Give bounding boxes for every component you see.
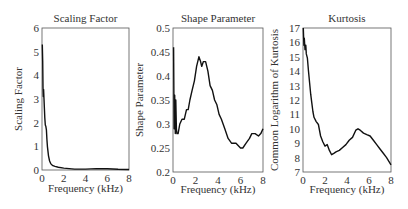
panel-scaling-factor: Scaling Factor Scaling Factor Frequency … — [12, 12, 132, 195]
y-tick-label: 0.35 — [151, 94, 171, 106]
x-tick-label: 0 — [170, 174, 176, 186]
y-tick-label: 14 — [289, 65, 301, 77]
x-tick-label: 6 — [238, 174, 244, 186]
y-tick-label: 5 — [34, 46, 40, 58]
y-tick-label: 0.4 — [156, 70, 170, 82]
plot-frame — [42, 28, 129, 170]
y-tick-label: 13 — [289, 80, 301, 92]
data-line — [303, 28, 391, 165]
x-tick-label: 4 — [215, 174, 221, 186]
y-tick-label: 0.3 — [156, 118, 170, 130]
data-line — [174, 47, 263, 148]
x-tick-label: 0 — [300, 174, 306, 186]
panel-title: Scaling Factor — [54, 12, 118, 24]
y-tick-label: 0.5 — [156, 22, 170, 34]
plot-frame — [173, 28, 263, 172]
x-tick-label: 4 — [344, 174, 350, 186]
y-tick-label: 17 — [289, 22, 301, 34]
figure: Scaling Factor Scaling Factor Frequency … — [0, 0, 408, 209]
y-tick-label: 8 — [295, 152, 301, 164]
y-tick-label: 7 — [295, 166, 301, 178]
panel-kurtosis: Kurtosis Common Logarithm of Kurtosis Fr… — [268, 12, 394, 196]
y-tick-label: 0.2 — [156, 166, 170, 178]
data-line — [42, 45, 129, 170]
axis-ticks: 024680.20.250.30.350.40.450.5 — [151, 22, 267, 186]
y-axis-label: Shape Parameter — [133, 63, 145, 138]
y-axis-label: Scaling Factor — [12, 67, 24, 131]
y-tick-label: 3 — [34, 93, 40, 105]
plot-frame — [303, 28, 391, 172]
y-tick-label: 12 — [289, 94, 300, 106]
x-tick-label: 8 — [126, 172, 132, 184]
x-tick-label: 6 — [105, 172, 111, 184]
panel-title: Shape Parameter — [181, 12, 256, 24]
axis-ticks: 024680123456 — [34, 22, 133, 184]
y-tick-label: 6 — [34, 22, 40, 34]
y-tick-label: 9 — [295, 137, 301, 149]
y-tick-label: 15 — [289, 51, 301, 63]
y-tick-label: 1 — [34, 140, 40, 152]
y-tick-label: 16 — [289, 36, 301, 48]
y-tick-label: 4 — [34, 69, 40, 81]
x-tick-label: 0 — [39, 172, 45, 184]
y-tick-label: 0.45 — [151, 46, 171, 58]
x-tick-label: 2 — [193, 174, 199, 186]
x-tick-label: 2 — [322, 174, 328, 186]
panel-shape-parameter: Shape Parameter Shape Parameter Frequenc… — [133, 12, 266, 196]
y-tick-label: 2 — [34, 117, 40, 129]
y-tick-label: 0.25 — [151, 142, 171, 154]
y-tick-label: 10 — [289, 123, 301, 135]
x-tick-label: 8 — [260, 174, 266, 186]
y-axis-label: Common Logarithm of Kurtosis — [268, 29, 280, 171]
y-tick-label: 11 — [289, 108, 300, 120]
x-tick-label: 4 — [83, 172, 89, 184]
x-tick-label: 2 — [61, 172, 67, 184]
panel-title: Kurtosis — [328, 12, 365, 24]
y-tick-label: 0 — [34, 164, 40, 176]
x-tick-label: 8 — [388, 174, 394, 186]
x-tick-label: 6 — [366, 174, 372, 186]
